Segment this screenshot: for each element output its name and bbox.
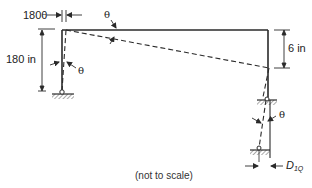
drop-label: 6 in — [288, 43, 306, 54]
frame-diagram — [0, 0, 312, 188]
deflected-beam — [66, 30, 269, 68]
height-dimension — [38, 29, 55, 91]
top-offset-label: 180θ — [23, 10, 47, 21]
height-label: 180 in — [6, 54, 36, 65]
left-pin-support — [52, 90, 74, 99]
displacement-label: D1Q — [286, 160, 303, 172]
original-frame — [62, 30, 268, 97]
left-theta-label: θ — [78, 66, 84, 76]
lower-theta-label: θ — [279, 110, 285, 120]
deflected-lower-column — [259, 100, 266, 148]
top-offset-dimension — [47, 10, 82, 22]
not-to-scale-note: (not to scale) — [135, 171, 193, 181]
displaced-support — [250, 146, 270, 162]
deflected-shape — [62, 30, 269, 148]
top-theta-label: θ — [104, 10, 110, 20]
